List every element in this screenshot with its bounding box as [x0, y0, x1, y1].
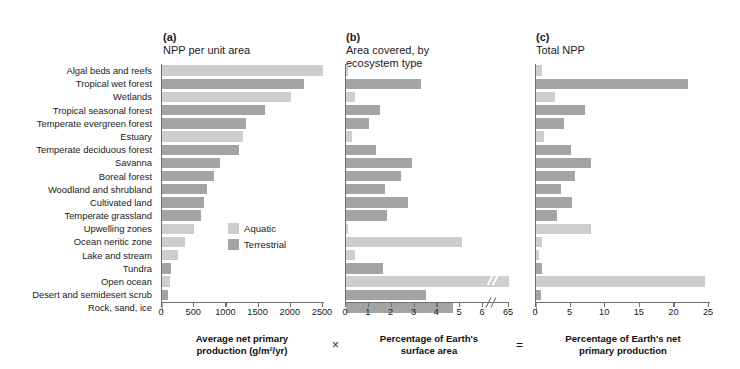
bar-row — [162, 275, 324, 288]
axis-tick-label: 6 — [479, 307, 484, 317]
axis-tick — [535, 302, 536, 307]
bar-terrestrial — [346, 184, 385, 194]
panel-c-title: (c) Total NPP — [536, 18, 585, 57]
category-label: Savanna — [0, 156, 157, 169]
category-label-column: Algal beds and reefsTropical wet forestW… — [0, 64, 157, 315]
bar-terrestrial — [346, 79, 421, 89]
category-label: Lake and stream — [0, 249, 157, 262]
bar-terrestrial — [346, 158, 412, 168]
bar-row — [162, 143, 324, 156]
category-label: Tropical seasonal forest — [0, 104, 157, 117]
bar-row — [346, 249, 513, 262]
bar-row — [536, 77, 715, 90]
category-label: Temperate deciduous forest — [0, 143, 157, 156]
bar-row — [162, 288, 324, 301]
axis-line — [535, 302, 710, 303]
panel-a-tag: (a) — [163, 31, 176, 43]
axis-tick-label-break: 65 — [503, 307, 513, 317]
category-label: Tundra — [0, 262, 157, 275]
axis-tick — [345, 302, 346, 307]
category-label: Rock, sand, ice — [0, 301, 157, 314]
bar-terrestrial — [346, 290, 426, 300]
bar-terrestrial — [346, 118, 369, 128]
bar-row — [346, 275, 513, 288]
bar-terrestrial — [162, 145, 239, 155]
bar-row — [346, 288, 513, 301]
category-label: Estuary — [0, 130, 157, 143]
bar-aquatic — [536, 65, 542, 75]
axis-tick-label: 0 — [532, 307, 537, 317]
bar-row — [346, 209, 513, 222]
bar-row — [536, 130, 715, 143]
bar-row — [346, 90, 513, 103]
bar-aquatic — [536, 131, 544, 141]
npp-figure: (a) NPP per unit area (b) Area covered, … — [0, 0, 740, 369]
axis-tick — [322, 302, 323, 307]
bar-row — [536, 275, 715, 288]
bar-aquatic — [536, 92, 555, 102]
bar-row — [536, 90, 715, 103]
category-label: Tropical wet forest — [0, 77, 157, 90]
legend-item: Aquatic — [228, 221, 286, 235]
bar-row — [162, 77, 324, 90]
axis-tick — [225, 302, 226, 307]
axis-tick — [368, 302, 369, 307]
axis-tick-label: 500 — [186, 307, 201, 317]
equals-operator: = — [516, 338, 523, 352]
panel-c-bars — [535, 64, 715, 302]
bar-aquatic — [346, 237, 462, 247]
bar-row — [536, 170, 715, 183]
bar-row — [162, 262, 324, 275]
panel-b-bars — [345, 64, 513, 302]
bar-terrestrial — [536, 158, 591, 168]
bar-row — [536, 64, 715, 77]
bar-terrestrial — [536, 145, 571, 155]
bar-aquatic — [536, 224, 591, 234]
axis-line — [161, 302, 324, 303]
axis-tick-label: 0 — [158, 307, 163, 317]
bar-row — [346, 104, 513, 117]
panel-a-plot: 05001000150020002500 — [161, 64, 324, 302]
bar-terrestrial — [346, 171, 401, 181]
bar-row — [346, 64, 513, 77]
category-label: Temperate grassland — [0, 209, 157, 222]
bar-aquatic — [536, 237, 542, 247]
axis-tick — [570, 302, 571, 307]
bar-row — [346, 196, 513, 209]
axis-tick — [508, 302, 509, 307]
bar-terrestrial — [346, 263, 383, 273]
bar-aquatic — [162, 224, 194, 234]
bar-row — [162, 130, 324, 143]
bar-aquatic — [162, 65, 323, 75]
bar-terrestrial — [346, 197, 408, 207]
bar-aquatic — [162, 276, 170, 286]
category-label: Temperate evergreen forest — [0, 117, 157, 130]
panel-a-title: (a) NPP per unit area — [163, 18, 250, 57]
bar-terrestrial — [536, 290, 541, 300]
bar-aquatic — [346, 92, 355, 102]
bar-row — [162, 196, 324, 209]
bar-row — [162, 170, 324, 183]
bar-terrestrial — [536, 197, 572, 207]
axis-tick-label: 1 — [365, 307, 370, 317]
panel-b-title: (b) Area covered, by ecosystem type — [346, 18, 476, 70]
bar-row — [536, 117, 715, 130]
axis-tick-label: 1500 — [247, 307, 267, 317]
axis-tick-label: 5 — [457, 307, 462, 317]
bar-aquatic — [536, 276, 705, 286]
bar-aquatic — [162, 237, 185, 247]
bar-row — [536, 156, 715, 169]
bar-row — [536, 235, 715, 248]
bar-row — [162, 90, 324, 103]
axis-tick-label: 3 — [411, 307, 416, 317]
bar-aquatic — [346, 224, 348, 234]
axis-tick-label: 4 — [434, 307, 439, 317]
bar-row — [346, 235, 513, 248]
bar-terrestrial — [162, 105, 265, 115]
bar-terrestrial — [536, 79, 688, 89]
axis-tick — [193, 302, 194, 307]
axis-tick — [604, 302, 605, 307]
category-label: Desert and semidesert scrub — [0, 288, 157, 301]
panel-c-axis-caption: Percentage of Earth's net primary produc… — [528, 333, 718, 357]
axis-tick — [673, 302, 674, 307]
